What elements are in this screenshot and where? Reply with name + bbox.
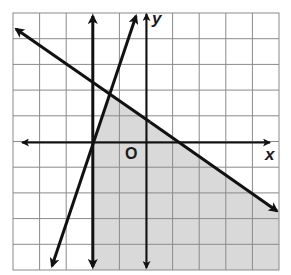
origin-label: O bbox=[125, 146, 137, 162]
shaded-region bbox=[93, 94, 279, 270]
y-axis-label: y bbox=[152, 10, 161, 27]
diagonal-line-left bbox=[16, 29, 150, 122]
x-axis-label: x bbox=[265, 146, 274, 163]
steep-line-down bbox=[52, 141, 94, 266]
coordinate-plane bbox=[0, 0, 291, 275]
